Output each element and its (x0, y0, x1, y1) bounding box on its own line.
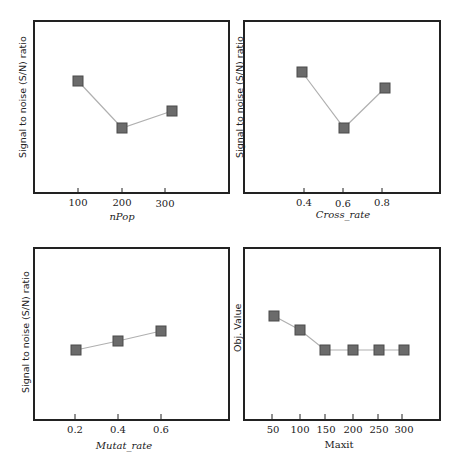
x-tick-label: 300 (394, 424, 413, 435)
data-point-marker (374, 345, 384, 355)
x-tick-label: 200 (343, 424, 362, 435)
x-axis-title: Maxit (324, 439, 353, 450)
x-tick-label: 150 (316, 424, 335, 435)
data-point-marker (348, 345, 358, 355)
data-point-marker (295, 325, 305, 335)
x-tick-label: 50 (267, 424, 280, 435)
data-point-marker (320, 345, 330, 355)
data-point-marker (269, 311, 279, 321)
plot-area (0, 0, 459, 466)
y-axis-title: Obj. Value (232, 304, 243, 352)
x-ticks (272, 414, 402, 419)
data-point-marker (399, 345, 409, 355)
x-tick-label: 100 (290, 424, 309, 435)
x-tick-label: 250 (369, 424, 388, 435)
